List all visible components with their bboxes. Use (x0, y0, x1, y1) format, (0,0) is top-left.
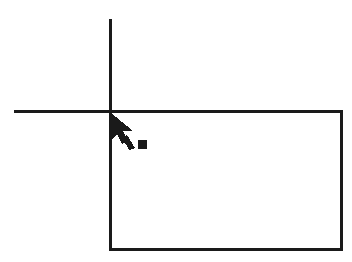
drawing-canvas[interactable] (0, 0, 352, 262)
square-marker[interactable] (138, 140, 147, 149)
canvas-background (0, 0, 352, 262)
figure-illustration (0, 0, 352, 262)
